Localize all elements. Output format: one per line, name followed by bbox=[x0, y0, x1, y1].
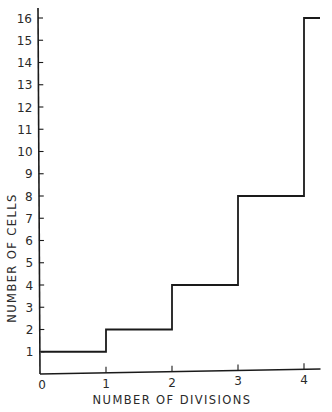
y-tick-label: 2 bbox=[26, 323, 34, 337]
y-axis-title: NUMBER OF CELLS bbox=[5, 193, 19, 322]
x-tick-label: 4 bbox=[300, 373, 308, 387]
y-tick-label: 6 bbox=[25, 234, 33, 248]
x-axis-title: NUMBER OF DIVISIONS bbox=[93, 393, 252, 407]
y-tick-label: 13 bbox=[17, 78, 32, 92]
data-series-cells bbox=[41, 18, 320, 352]
x-axis-ticks: 01234 bbox=[38, 363, 308, 392]
x-tick-label: 0 bbox=[38, 378, 46, 392]
y-tick-label: 11 bbox=[17, 123, 32, 137]
x-tick-label: 2 bbox=[168, 376, 176, 390]
y-tick-label: 7 bbox=[25, 212, 33, 226]
y-tick-label: 4 bbox=[25, 279, 33, 293]
axes bbox=[38, 8, 321, 374]
y-tick-label: 15 bbox=[17, 34, 32, 48]
y-tick-label: 1 bbox=[26, 345, 34, 359]
step-chart: 12345678910111213141516 01234 NUMBER OF … bbox=[0, 0, 332, 412]
y-tick-label: 16 bbox=[17, 12, 32, 26]
y-tick-label: 14 bbox=[17, 56, 32, 70]
x-axis-line bbox=[40, 369, 321, 374]
x-tick-label: 3 bbox=[234, 374, 242, 388]
y-tick-label: 10 bbox=[17, 145, 32, 159]
x-tick-label: 1 bbox=[102, 377, 110, 391]
y-tick-label: 8 bbox=[25, 190, 33, 204]
y-tick-label: 9 bbox=[25, 167, 33, 181]
y-tick-label: 5 bbox=[25, 256, 33, 270]
y-tick-label: 12 bbox=[17, 101, 32, 115]
y-axis-ticks: 12345678910111213141516 bbox=[17, 12, 45, 360]
y-tick-label: 3 bbox=[26, 301, 34, 315]
